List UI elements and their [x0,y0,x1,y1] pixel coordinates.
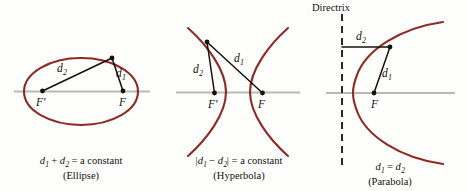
directrix-label: Directrix [312,3,350,14]
ellipse-caption: d1 + d2 = a constant (Ellipse) [10,153,152,183]
ellipse-focus-left-dot [40,89,45,94]
conic-sections-figure: d2 d1 F′ F d2 d1 F′ F Directrix d2 d1 F … [0,0,467,191]
hyperbola-d1-segment [207,42,263,93]
ellipse-panel-graphic [14,56,150,125]
parabola-panel-graphic [326,14,455,168]
parabola-d1-label: d1 [382,68,392,80]
ellipse-focus-left-label: F′ [36,97,46,109]
parabola-caption-name: (Parabola) [330,174,450,189]
parabola-caption-formula: d1 = d2 [330,159,450,174]
ellipse-caption-formula: d1 + d2 = a constant [10,153,152,168]
hyperbola-focus-left-label: F′ [208,99,218,111]
parabola-caption: d1 = d2 (Parabola) [330,159,450,189]
hyperbola-d2-label: d2 [193,64,203,76]
ellipse-caption-name: (Ellipse) [10,168,152,183]
parabola-focus-dot [372,91,377,96]
hyperbola-d2-segment [207,42,215,93]
hyperbola-point-on-curve-dot [205,40,210,45]
ellipse-focus-right-dot [121,89,126,94]
ellipse-d1-label: d1 [116,68,126,80]
hyperbola-caption: |d1 − d2| = a constant (Hyperbola) [165,153,313,183]
ellipse-focus-right-label: F [119,97,126,109]
hyperbola-focus-right-label: F [258,99,265,111]
hyperbola-caption-formula: |d1 − d2| = a constant [165,153,313,168]
hyperbola-focus-left-dot [212,91,217,96]
hyperbola-caption-name: (Hyperbola) [165,168,313,183]
hyperbola-focus-right-dot [260,91,265,96]
parabola-d2-label: d2 [356,31,366,43]
parabola-focus-label: F [371,99,378,111]
ellipse-point-on-curve-dot [110,56,115,61]
ellipse-d2-label: d2 [57,63,67,75]
hyperbola-d1-label: d1 [234,53,244,65]
hyperbola-panel-graphic [176,28,300,156]
parabola-point-on-curve-dot [388,45,393,50]
